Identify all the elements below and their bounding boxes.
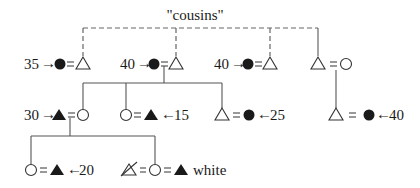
couple-row2-c: ← 25 bbox=[215, 106, 285, 123]
couple-row3-a: ← 20 bbox=[26, 161, 95, 178]
age-label: 40 bbox=[214, 56, 229, 72]
couple-row2-a: 30 → bbox=[24, 106, 89, 123]
open-triangle-icon bbox=[263, 57, 277, 69]
open-triangle-icon bbox=[329, 108, 343, 120]
filled-triangle-icon bbox=[50, 164, 64, 175]
cousins-connector bbox=[83, 28, 318, 56]
open-triangle-icon bbox=[76, 57, 90, 69]
open-circle-icon bbox=[26, 165, 37, 176]
spouse-descriptor: white bbox=[193, 162, 227, 178]
open-circle-icon bbox=[121, 110, 132, 121]
couple-row2-b: ← 15 bbox=[121, 106, 190, 123]
age-label: 25 bbox=[270, 107, 285, 123]
divorced-triangle-icon bbox=[121, 162, 137, 176]
filled-circle-icon bbox=[243, 59, 254, 70]
open-circle-icon bbox=[150, 165, 161, 176]
couple-row2-d: ← 40 bbox=[329, 106, 404, 123]
filled-triangle-icon bbox=[144, 109, 158, 120]
couple-row3-b: white bbox=[121, 162, 227, 178]
open-circle-icon bbox=[341, 59, 352, 70]
open-triangle-icon bbox=[311, 57, 325, 69]
open-circle-icon bbox=[78, 110, 89, 121]
filled-triangle-icon bbox=[174, 164, 188, 175]
kinship-diagram: "cousins" 35 → 40 → 40 → bbox=[0, 0, 420, 188]
couple-row1-4 bbox=[311, 57, 352, 70]
age-label: 40 bbox=[389, 107, 404, 123]
filled-circle-icon bbox=[244, 110, 255, 121]
filled-circle-icon bbox=[55, 59, 66, 70]
arrow-right-icon: → bbox=[41, 55, 56, 71]
filled-circle-icon bbox=[149, 59, 160, 70]
open-triangle-icon bbox=[169, 57, 183, 69]
couple-row1-3: 40 → bbox=[214, 55, 277, 72]
couple-row1-1: 35 → bbox=[24, 55, 90, 72]
age-label: 35 bbox=[24, 56, 39, 72]
open-triangle-icon bbox=[215, 108, 229, 120]
age-label: 30 bbox=[24, 107, 39, 123]
couple-row1-2: 40 → bbox=[120, 55, 183, 72]
age-label: 15 bbox=[174, 107, 189, 123]
age-label: 20 bbox=[79, 162, 94, 178]
cousins-label: "cousins" bbox=[166, 7, 223, 23]
filled-circle-icon bbox=[364, 110, 375, 121]
age-label: 40 bbox=[120, 56, 135, 72]
